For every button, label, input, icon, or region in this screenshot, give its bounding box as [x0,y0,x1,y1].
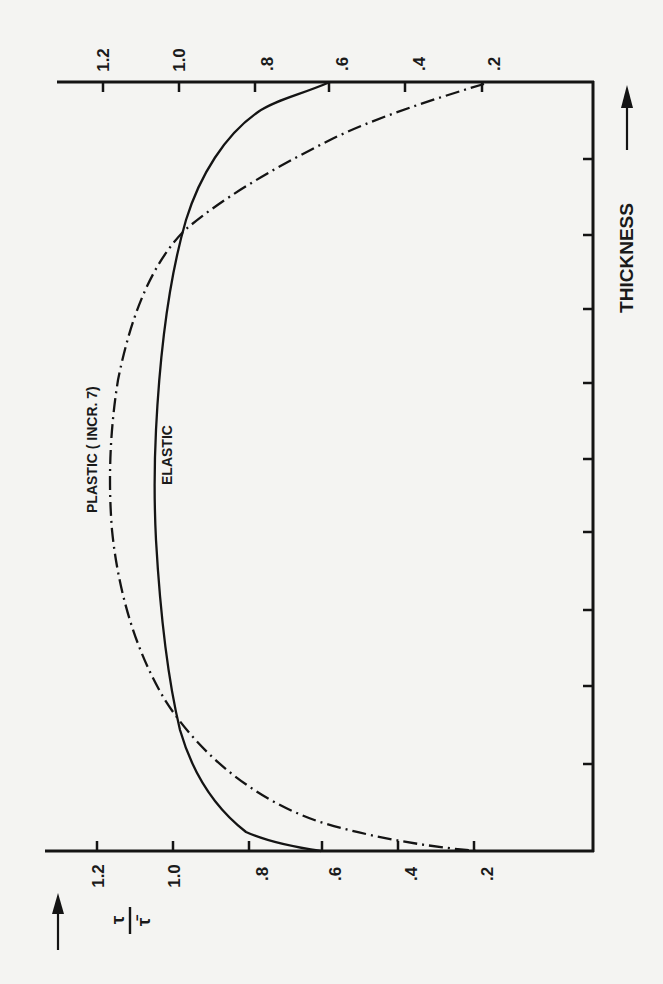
ratio-axis-title: τ τ̄ [107,907,154,934]
bottom-tick-label-1-0: 1.0 [165,864,184,888]
ratio-arrow-icon [52,893,64,950]
bottom-tick-label-0-6: .6 [326,867,345,881]
ratio-denominator: τ̄ [133,915,154,926]
bottom-tick-label-1-2: 1.2 [89,864,108,888]
top-tick-label-0-4: .4 [410,56,429,71]
bottom-tick-label-0-4: .4 [402,866,421,881]
bottom-tick-label-0-2: .2 [478,867,497,881]
top-tick-label-0-6: .6 [333,57,352,71]
elastic-curve [155,82,331,851]
top-tick-label-1-2: 1.2 [94,48,113,72]
top-tick-label-0-8: .8 [258,57,277,71]
thickness-axis-title: THICKNESS [616,203,637,313]
elastic-curve-label: ELASTIC [159,425,175,485]
top-tick-label-1-0: 1.0 [170,48,189,72]
axes-frame [45,81,594,852]
thickness-arrow-icon [621,85,633,150]
plastic-curve-label: PLASTIC ( INCR. 7) [84,386,100,513]
stress-thickness-chart: 1.2 1.0 .8 .6 .4 .2 1.2 1.0 .8 .6 .4 .2 … [0,0,663,984]
bottom-tick-label-0-8: .8 [253,867,272,881]
ratio-numerator: τ [107,915,128,924]
top-tick-label-0-2: .2 [485,57,504,71]
top-tick-labels: 1.2 1.0 .8 .6 .4 .2 [94,48,504,72]
bottom-tick-labels: 1.2 1.0 .8 .6 .4 .2 [89,864,497,888]
